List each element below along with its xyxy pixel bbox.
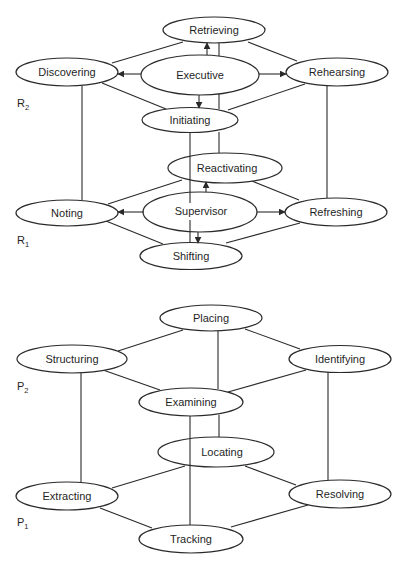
node-structuring: Structuring: [17, 345, 127, 373]
edge-retrieving-rehearsing: [248, 42, 297, 61]
node-label: Examining: [165, 396, 216, 408]
edge-locating-resolving: [245, 466, 296, 485]
node-label: Rehearsing: [309, 66, 365, 78]
node-executive: Executive: [141, 55, 259, 95]
level-label-p2: P2: [17, 380, 29, 395]
node-noting: Noting: [16, 200, 118, 226]
edge-placing-identifying: [245, 329, 300, 349]
node-label: Noting: [51, 207, 83, 219]
edge-extracting-tracking: [100, 508, 152, 528]
node-refreshing: Refreshing: [285, 198, 387, 226]
top-diagram: R2 R1 Retrieving Discovering Executive R…: [16, 17, 388, 270]
node-resolving: Resolving: [289, 480, 391, 508]
level-label-p1: P1: [17, 516, 29, 531]
figure: R2 R1 Retrieving Discovering Executive R…: [0, 0, 409, 567]
edge-resolving-tracking: [231, 505, 308, 527]
node-discovering: Discovering: [16, 58, 118, 86]
node-extracting: Extracting: [16, 482, 118, 510]
node-label: Locating: [201, 446, 243, 458]
node-label: Extracting: [43, 490, 92, 502]
node-examining: Examining: [139, 388, 243, 416]
node-label: Resolving: [316, 488, 364, 500]
node-label: Structuring: [45, 353, 98, 365]
level-label-r1: R1: [17, 234, 29, 249]
node-reactivating: Reactivating: [168, 153, 282, 183]
node-placing: Placing: [160, 305, 262, 331]
bottom-diagram: P2 P1 Placing Structuring Identifying Ex…: [16, 305, 391, 553]
node-supervisor: Supervisor: [143, 192, 257, 232]
node-label: Reactivating: [197, 162, 258, 174]
level-label-r2: R2: [17, 97, 29, 112]
edge-identifying-examining: [228, 370, 306, 392]
node-tracking: Tracking: [139, 525, 243, 553]
node-identifying: Identifying: [289, 346, 391, 373]
node-initiating: Initiating: [142, 108, 238, 133]
node-label: Executive: [176, 69, 224, 81]
node-shifting: Shifting: [140, 243, 242, 270]
node-label: Retrieving: [189, 24, 239, 36]
node-label: Supervisor: [175, 205, 228, 217]
node-rehearsing: Rehearsing: [286, 58, 388, 86]
node-label: Placing: [193, 312, 229, 324]
node-label: Tracking: [170, 533, 212, 545]
node-label: Shifting: [173, 250, 210, 262]
node-label: Identifying: [315, 353, 365, 365]
node-label: Initiating: [170, 114, 211, 126]
edge-locating-extracting: [112, 466, 185, 488]
node-label: Refreshing: [309, 206, 362, 218]
node-retrieving: Retrieving: [163, 17, 265, 43]
node-label: Discovering: [38, 66, 95, 78]
edge-placing-structuring: [118, 330, 183, 351]
edge-reactivating-refreshing: [252, 181, 299, 200]
edge-structuring-examining: [103, 370, 160, 390]
node-locating: Locating: [158, 437, 274, 467]
